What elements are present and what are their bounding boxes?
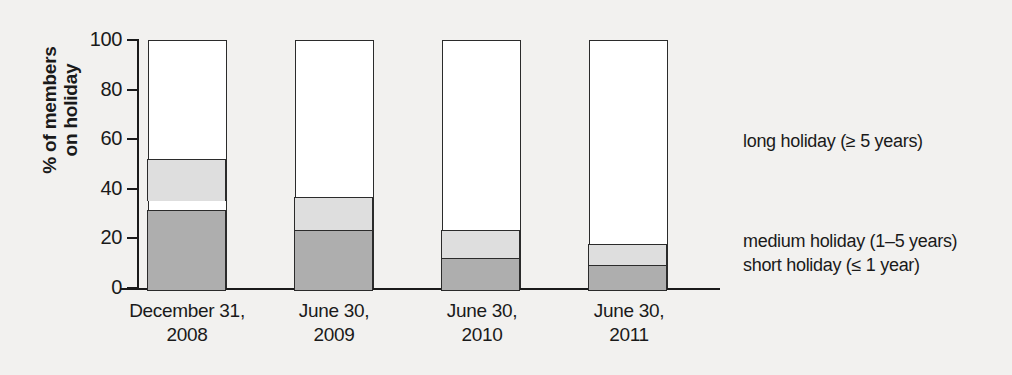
- bar-december-31-2008[interactable]: [148, 40, 227, 288]
- y-tick-label-0-wrap: 0: [78, 277, 122, 297]
- bar-segment-short-2010[interactable]: [441, 258, 520, 290]
- x-axis-label-line-2: 2011: [545, 323, 713, 347]
- y-tick-mark-40: [127, 188, 137, 190]
- legend-entry-long-holiday: long holiday (≥ 5 years): [743, 131, 923, 153]
- y-tick-label-100-wrap: 100: [78, 29, 122, 49]
- x-axis-label-june-30-2011: June 30, 2011: [545, 299, 713, 347]
- y-tick-label-80-wrap: 80: [78, 79, 122, 99]
- bar-segment-medium-2011[interactable]: [588, 244, 667, 266]
- x-axis-label-december-31-2008: December 31, 2008: [103, 299, 271, 347]
- y-tick-mark-100: [127, 39, 137, 41]
- chart-legend: long holiday (≥ 5 years) medium holiday …: [743, 0, 1012, 375]
- y-tick-label-40: 40: [82, 178, 122, 198]
- y-tick-label-60: 60: [82, 128, 122, 148]
- x-axis-label-june-30-2009: June 30, 2009: [250, 299, 418, 347]
- y-tick-mark-20: [127, 237, 137, 239]
- x-axis-label-june-30-2010: June 30, 2010: [398, 299, 566, 347]
- x-axis-label-line-1: June 30,: [250, 299, 418, 323]
- bar-segment-medium-2010[interactable]: [441, 230, 520, 260]
- legend-entry-short-holiday: short holiday (≤ 1 year): [743, 255, 920, 277]
- plot-area: 0 20 40 60 80 100: [0, 0, 760, 375]
- y-tick-label-20: 20: [82, 227, 122, 247]
- bar-segment-medium-2008[interactable]: [147, 159, 226, 201]
- y-tick-label-60-wrap: 60: [78, 128, 122, 148]
- bar-june-30-2010[interactable]: [442, 40, 521, 288]
- y-tick-label-40-wrap: 40: [78, 178, 122, 198]
- y-tick-mark-0: [127, 287, 137, 289]
- x-axis-label-line-1: June 30,: [398, 299, 566, 323]
- x-axis-label-line-2: 2010: [398, 323, 566, 347]
- x-axis-label-line-2: 2008: [103, 323, 271, 347]
- bar-june-30-2011[interactable]: [589, 40, 668, 288]
- y-tick-mark-60: [127, 138, 137, 140]
- y-tick-label-80: 80: [82, 79, 122, 99]
- chart-figure: % of members on holiday 0 20 40 60 80 10…: [0, 0, 1012, 375]
- y-tick-label-100: 100: [82, 29, 122, 49]
- bar-segment-medium-2009[interactable]: [294, 197, 373, 231]
- y-tick-label-0: 0: [82, 277, 122, 297]
- bar-segment-short-2011[interactable]: [588, 265, 667, 290]
- bar-segment-short-2009[interactable]: [294, 230, 373, 291]
- y-tick-label-20-wrap: 20: [78, 227, 122, 247]
- bar-segment-short-2008[interactable]: [147, 210, 226, 291]
- x-axis-label-line-1: December 31,: [103, 299, 271, 323]
- y-tick-mark-80: [127, 89, 137, 91]
- bar-june-30-2009[interactable]: [295, 40, 374, 288]
- legend-entry-medium-holiday: medium holiday (1–5 years): [743, 231, 957, 253]
- x-axis-label-line-2: 2009: [250, 323, 418, 347]
- x-axis-label-line-1: June 30,: [545, 299, 713, 323]
- y-axis-line: [137, 39, 139, 289]
